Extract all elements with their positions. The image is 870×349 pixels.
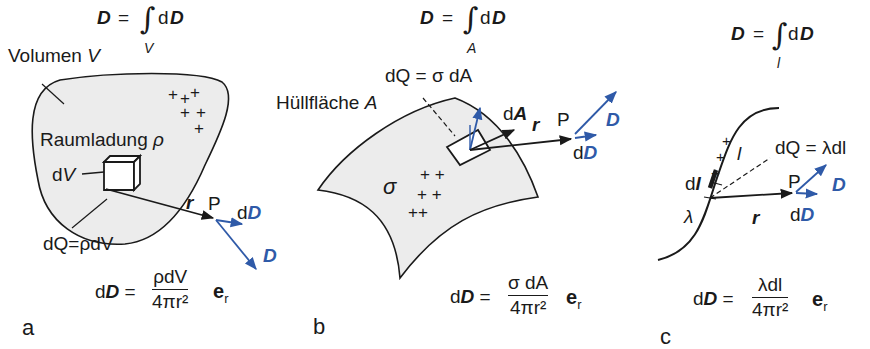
plus-signs-a1: + (168, 86, 178, 103)
dV-label: dV (52, 165, 75, 184)
lambda-label: λ (684, 207, 693, 226)
r-label-c: r (752, 208, 759, 227)
formula-fraction-c: λdl 4πr² (752, 274, 788, 321)
formula-fraction-b: σ dA 4πr² (508, 272, 548, 319)
formula-lhs-b: dD = (450, 287, 491, 306)
unit-vector-a: er (213, 280, 228, 306)
dl-label: dl (685, 174, 701, 193)
plus-signs-c2: + (716, 149, 725, 164)
dD-vector-b (575, 135, 596, 138)
integral-d-a: d (158, 8, 169, 27)
integral-sign-b: ∫ (463, 4, 479, 34)
plus-signs-b2: + + (417, 186, 442, 203)
plus-signs-a4: + (180, 104, 190, 121)
unit-vector-c: er (812, 288, 827, 314)
integral-eq-c: = (753, 24, 764, 43)
plus-signs-b1: + + (420, 166, 445, 183)
integral-rhs-a: D (170, 8, 184, 27)
volume-label: Volumen V (8, 46, 100, 65)
integral-rhs-c: D (800, 24, 814, 43)
dD-vector-c (796, 193, 817, 194)
integral-lhs-c: D (731, 24, 745, 43)
charge-element-c: dQ = λdl (775, 138, 846, 157)
dD-label-a: dD (237, 203, 261, 222)
D-vector-a (216, 220, 256, 269)
formula-lhs-a: dD = (95, 282, 136, 301)
volume-element-cube-icon (104, 156, 140, 190)
panel-label-b: b (313, 314, 325, 340)
integral-limit-c: l (777, 55, 780, 71)
integral-d-c: d (788, 24, 799, 43)
integral-sign-a: ∫ (140, 4, 156, 34)
integral-eq-b: = (442, 8, 453, 27)
plus-signs-c3: + (711, 165, 720, 180)
point-P-b: P (557, 110, 570, 129)
plus-signs-a3: + (190, 84, 200, 101)
point-P-c: P (788, 172, 801, 191)
space-charge-label: Raumladung ρ (40, 130, 164, 149)
integral-lhs-a: D (97, 8, 111, 27)
plus-signs-b3: ++ (408, 204, 428, 221)
formula-lhs-c: dD = (693, 289, 734, 308)
D-label-a: D (263, 246, 277, 265)
plus-signs-c1: + (722, 133, 731, 148)
integral-limit-b: A (467, 40, 476, 56)
surface-label: Hüllfläche A (276, 93, 377, 112)
formula-fraction-a: ρdV 4πr² (152, 266, 188, 313)
r-vector-c (710, 193, 792, 198)
integral-rhs-b: D (492, 8, 506, 27)
charge-element-a: dQ=ρdV (43, 234, 114, 253)
integral-d-b: d (480, 8, 491, 27)
r-label-a: r (186, 193, 193, 212)
curve-label-l: l (737, 144, 741, 163)
sigma-label: σ (383, 176, 396, 198)
panel-label-c: c (660, 324, 671, 349)
point-P-a: P (208, 194, 221, 213)
dD-label-c: dD (790, 205, 814, 224)
r-label-b: r (532, 115, 539, 134)
integral-eq-a: = (118, 8, 129, 27)
D-label-b: D (606, 110, 620, 129)
integral-limit-a: V (144, 40, 153, 56)
integral-lhs-b: D (420, 8, 434, 27)
charge-element-b: dQ = σ dA (385, 66, 472, 85)
unit-vector-b: er (566, 286, 581, 312)
dD-label-b: dD (573, 143, 597, 162)
D-label-c: D (832, 175, 846, 194)
dA-label: dA (503, 104, 527, 123)
panel-label-a: a (22, 315, 34, 341)
integral-sign-c: ∫ (772, 20, 788, 50)
plus-signs-a6: + (194, 120, 204, 137)
